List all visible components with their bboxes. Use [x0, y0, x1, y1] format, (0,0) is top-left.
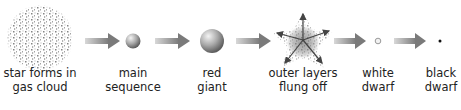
red-giant-icon — [200, 29, 224, 53]
label-line: gas cloud — [4, 80, 77, 94]
label-planetary-nebula: outer layers flung off — [268, 66, 337, 94]
label-line: star forms in — [4, 66, 77, 80]
white-dwarf-icon — [375, 38, 381, 44]
label-line: red — [197, 66, 226, 80]
main-sequence-star-icon — [126, 34, 141, 49]
arrow-icon — [236, 33, 271, 49]
black-dwarf-icon — [439, 40, 442, 43]
label-line: giant — [197, 80, 226, 94]
label-line: white — [362, 66, 395, 80]
label-gas-cloud: star forms in gas cloud — [4, 66, 77, 94]
label-red-giant: red giant — [197, 66, 226, 94]
arrow-icon — [394, 33, 426, 49]
label-white-dwarf: white dwarf — [362, 66, 395, 94]
label-line: sequence — [105, 80, 160, 94]
label-line: flung off — [268, 80, 337, 94]
label-line: main — [105, 66, 160, 80]
label-line: dwarf — [362, 80, 395, 94]
stellar-evolution-diagram: star forms in gas cloud main sequence re… — [0, 0, 461, 110]
label-main-sequence: main sequence — [105, 66, 160, 94]
label-line: dwarf — [425, 80, 458, 94]
arrow-icon — [155, 33, 190, 49]
label-black-dwarf: black dwarf — [425, 66, 458, 94]
label-line: black — [425, 66, 458, 80]
gas-cloud-icon — [7, 5, 73, 70]
label-line: outer layers — [268, 66, 337, 80]
arrow-icon — [85, 33, 120, 49]
diagram-artwork — [0, 0, 461, 70]
arrow-icon — [334, 33, 366, 49]
planetary-nebula-icon — [273, 12, 333, 68]
